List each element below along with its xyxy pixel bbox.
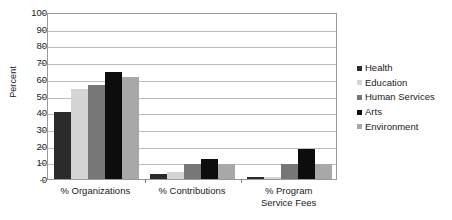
legend-item: Education	[357, 76, 452, 91]
legend-swatch	[357, 110, 362, 115]
y-tick-mark	[40, 130, 45, 131]
legend-swatch	[357, 124, 362, 129]
bar	[54, 112, 71, 179]
bar	[264, 177, 281, 179]
bar	[167, 172, 184, 179]
y-tick-mark	[40, 30, 45, 31]
bar	[122, 77, 139, 179]
x-category-label: % Contributions	[144, 185, 241, 197]
y-tick-mark	[40, 46, 45, 47]
bar	[71, 89, 88, 179]
y-tick-mark	[40, 80, 45, 81]
y-tick-mark	[40, 163, 45, 164]
x-category-label: % Organizations	[47, 185, 144, 197]
legend-swatch	[357, 80, 362, 85]
bar	[298, 149, 315, 179]
legend-swatch	[357, 95, 362, 100]
legend-item: Health	[357, 61, 452, 76]
legend-label: Health	[365, 63, 392, 73]
legend-item: Environment	[357, 119, 452, 134]
y-axis-ticks: 1009080706050403020100	[10, 0, 47, 220]
y-tick-mark	[40, 97, 45, 98]
bar	[247, 177, 264, 179]
legend-label: Human Services	[365, 92, 435, 102]
legend-label: Environment	[365, 122, 418, 132]
legend-item: Human Services	[357, 90, 452, 105]
bar	[218, 164, 235, 179]
legend-label: Arts	[365, 107, 382, 117]
category-separator-tick	[241, 179, 242, 183]
bar-group	[48, 14, 145, 179]
bar	[315, 164, 332, 179]
y-tick-mark	[40, 63, 45, 64]
bar-group	[145, 14, 242, 179]
bar	[184, 164, 201, 179]
x-category-label: % Program Service Fees	[240, 185, 337, 208]
y-tick-mark	[40, 180, 45, 181]
y-tick-mark	[40, 13, 45, 14]
bar-group	[241, 14, 338, 179]
chart-legend: HealthEducationHuman ServicesArtsEnviron…	[357, 61, 452, 134]
legend-label: Education	[365, 78, 407, 88]
plot-area	[47, 13, 337, 180]
bar	[201, 159, 218, 179]
bar	[150, 174, 167, 179]
y-tick-mark	[40, 113, 45, 114]
y-tick-mark	[40, 147, 45, 148]
bar	[281, 164, 298, 179]
category-separator-tick	[145, 179, 146, 183]
bar-chart: Percent 1009080706050403020100 HealthEdu…	[0, 0, 452, 220]
legend-swatch	[357, 66, 362, 71]
legend-item: Arts	[357, 105, 452, 120]
bar	[88, 85, 105, 179]
bar	[105, 72, 122, 179]
